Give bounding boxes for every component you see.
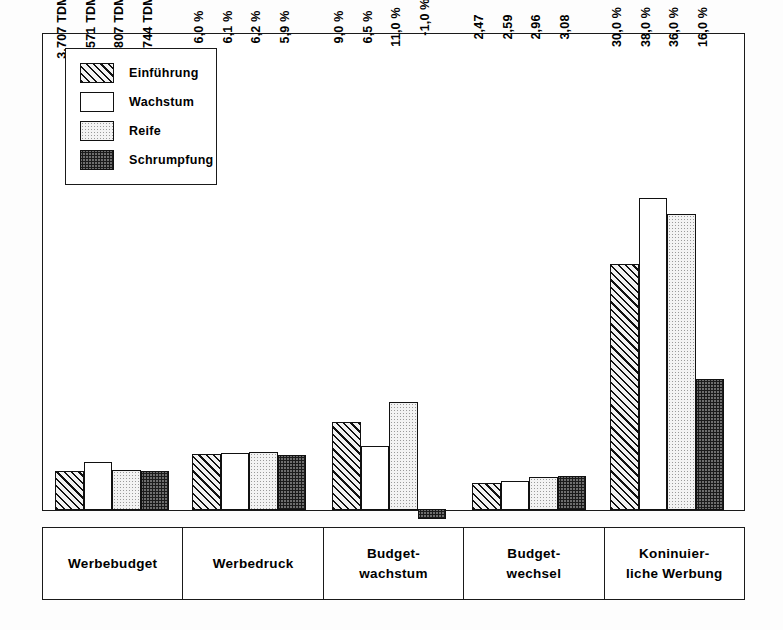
legend-item: Reife: [80, 116, 216, 145]
legend-item: Einführung: [80, 58, 216, 87]
bar[interactable]: [192, 454, 221, 510]
legend-item-label: Wachstum: [129, 95, 194, 109]
bar[interactable]: [141, 471, 170, 510]
bar-value-label: 30,0 %: [610, 7, 624, 47]
bar-value-label: 6,5 %: [361, 11, 375, 44]
legend-item-label: Schrumpfung: [129, 153, 214, 167]
bar-value-label: 5,9 %: [278, 11, 292, 44]
bar-value-label: 2,47: [472, 14, 486, 39]
bar[interactable]: [696, 379, 725, 510]
bar[interactable]: [529, 477, 558, 510]
bar-column: 6,1 %: [221, 33, 250, 510]
category-label: Budget-wachstum: [324, 528, 464, 599]
bar-value-label: 2,59: [501, 14, 515, 39]
bar-value-label: 6,2 %: [249, 11, 263, 44]
bar[interactable]: [112, 470, 141, 510]
category-label: Werbedruck: [183, 528, 323, 599]
bar-value-label: 16,0 %: [696, 7, 710, 47]
bar-column: 16,0 %: [696, 33, 725, 510]
bar-column: 6,2 %: [249, 33, 278, 510]
bar-value-label: 38,0 %: [639, 7, 653, 47]
bar-value-label: 36,0 %: [667, 7, 681, 47]
bar-value-label: -1,0 %: [418, 0, 432, 36]
bar[interactable]: [278, 455, 307, 510]
bar-value-label: 3,08: [558, 14, 572, 39]
category-label: Werbebudget: [43, 528, 183, 599]
bar-column: -1,0 %: [418, 33, 447, 510]
bar-value-label: 2,96: [529, 14, 543, 39]
bar[interactable]: [84, 462, 113, 510]
category-label: Budget-wechsel: [464, 528, 604, 599]
bar-column: 9,0 %: [332, 33, 361, 510]
bar[interactable]: [389, 402, 418, 510]
bar[interactable]: [558, 476, 587, 510]
bar-chart: 3.707 TDM4.571 TDM3.807 TDM3.744 TDM6,0 …: [0, 0, 783, 630]
bar[interactable]: [418, 509, 447, 519]
bar-column: 6,5 %: [361, 33, 390, 510]
bar-column: 11,0 %: [389, 33, 418, 510]
legend-item-label: Einführung: [129, 66, 199, 80]
legend-swatch-diagonal-hatch-icon: [80, 63, 114, 83]
baseline-axis: [42, 510, 745, 511]
bar[interactable]: [332, 422, 361, 510]
bar-column: 36,0 %: [667, 33, 696, 510]
bar-value-label: 6,1 %: [221, 11, 235, 44]
bar[interactable]: [610, 264, 639, 510]
bar[interactable]: [667, 214, 696, 510]
bar[interactable]: [361, 446, 390, 510]
bar-column: 2,59: [501, 33, 530, 510]
bar[interactable]: [472, 483, 501, 510]
bar[interactable]: [501, 481, 530, 510]
legend-item-label: Reife: [129, 124, 161, 138]
bar-value-label: 9,0 %: [332, 11, 346, 44]
bar-column: 38,0 %: [639, 33, 668, 510]
bar-column: 5,9 %: [278, 33, 307, 510]
bar-column: 2,47: [472, 33, 501, 510]
bar[interactable]: [639, 198, 668, 510]
bar[interactable]: [55, 471, 84, 510]
legend-swatch-dark-dots-icon: [80, 150, 114, 170]
bar[interactable]: [249, 452, 278, 510]
bar-value-label: 11,0 %: [389, 7, 403, 46]
legend-swatch-light-dots-icon: [80, 121, 114, 141]
category-label: Koninuier-liche Werbung: [605, 528, 744, 599]
bar-column: 2,96: [529, 33, 558, 510]
bar[interactable]: [221, 453, 250, 510]
legend-swatch-white-icon: [80, 92, 114, 112]
bar-column: 3,08: [558, 33, 587, 510]
legend: EinführungWachstumReifeSchrumpfung: [65, 48, 217, 185]
bar-value-label: 6,0 %: [192, 11, 206, 44]
legend-item: Schrumpfung: [80, 145, 216, 174]
bar-column: 30,0 %: [610, 33, 639, 510]
legend-item: Wachstum: [80, 87, 216, 116]
category-axis: WerbebudgetWerbedruckBudget-wachstumBudg…: [42, 527, 745, 600]
